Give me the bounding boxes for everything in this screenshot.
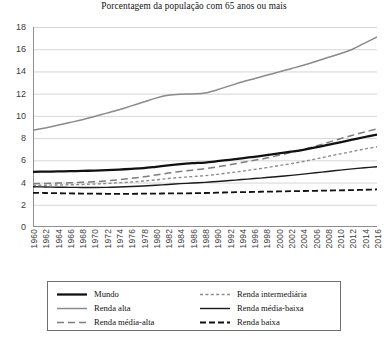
legend-swatch xyxy=(200,289,230,299)
chart-title: Porcentagem da população com 65 anos ou … xyxy=(0,0,388,12)
x-tick-label: 1968 xyxy=(78,229,88,248)
x-tick-label: 1972 xyxy=(103,229,113,248)
x-axis: 1960196219641966196819701972197419761978… xyxy=(33,229,377,277)
x-tick-label: 1964 xyxy=(54,229,64,248)
legend-swatch xyxy=(57,289,87,299)
x-tick-label: 1986 xyxy=(189,229,199,248)
y-tick-label: 6 xyxy=(21,155,26,165)
x-tick-label: 2012 xyxy=(348,229,358,248)
legend-label: Mundo xyxy=(94,289,119,299)
plot-area xyxy=(33,27,377,227)
y-tick-label: 16 xyxy=(16,44,26,54)
y-tick-label: 10 xyxy=(16,111,26,121)
x-tick-label: 1996 xyxy=(250,229,260,248)
x-tick-label: 1978 xyxy=(140,229,150,248)
legend-swatch xyxy=(57,317,87,327)
x-tick-label: 2000 xyxy=(275,229,285,248)
legend-item[interactable]: Renda baixa xyxy=(200,315,307,328)
y-tick-label: 0 xyxy=(21,222,26,232)
y-tick-label: 14 xyxy=(16,66,26,76)
y-tick-label: 8 xyxy=(21,133,26,143)
legend-label: Renda alta xyxy=(94,303,131,313)
legend-label: Renda média-alta xyxy=(94,317,154,327)
series-line-renda-intermedi-ria xyxy=(33,147,377,186)
x-tick-label: 1984 xyxy=(176,229,186,248)
legend-label: Renda intermediária xyxy=(237,289,307,299)
legend-swatch xyxy=(57,303,87,313)
x-tick-label: 1960 xyxy=(29,229,39,248)
series-line-renda-baixa xyxy=(33,189,377,193)
legend-swatch xyxy=(200,317,230,327)
y-axis: 024681012141618 xyxy=(0,0,33,240)
x-tick-label: 2016 xyxy=(373,229,383,248)
x-tick-label: 2010 xyxy=(336,229,346,248)
legend-item[interactable]: Renda intermediária xyxy=(200,287,307,300)
y-tick-label: 12 xyxy=(16,89,26,99)
x-tick-label: 1998 xyxy=(262,229,272,248)
x-tick-label: 1982 xyxy=(164,229,174,248)
chart-legend: MundoRenda altaRenda média-alta Renda in… xyxy=(47,281,341,331)
legend-column-right: Renda intermediáriaRenda média-baixaRend… xyxy=(200,287,307,329)
x-tick-label: 1988 xyxy=(201,229,211,248)
x-tick-label: 2002 xyxy=(287,229,297,248)
y-tick-label: 18 xyxy=(16,22,26,32)
legend-swatch xyxy=(200,303,230,313)
y-tick-label: 4 xyxy=(21,178,26,188)
x-tick-label: 1970 xyxy=(90,229,100,248)
x-tick-label: 2014 xyxy=(361,229,371,248)
legend-column-left: MundoRenda altaRenda média-alta xyxy=(57,287,154,329)
x-tick-label: 1962 xyxy=(41,229,51,248)
legend-item[interactable]: Renda alta xyxy=(57,301,154,314)
x-tick-label: 1966 xyxy=(66,229,76,248)
x-tick-label: 1980 xyxy=(152,229,162,248)
legend-item[interactable]: Renda média-baixa xyxy=(200,301,307,314)
legend-label: Renda baixa xyxy=(237,317,280,327)
legend-item[interactable]: Mundo xyxy=(57,287,154,300)
legend-label: Renda média-baixa xyxy=(237,303,304,313)
x-tick-label: 1992 xyxy=(226,229,236,248)
chart-container: Porcentagem da população com 65 anos ou … xyxy=(0,0,388,344)
legend-item[interactable]: Renda média-alta xyxy=(57,315,154,328)
x-tick-label: 1990 xyxy=(213,229,223,248)
series-line-mundo xyxy=(33,135,377,172)
x-tick-label: 1994 xyxy=(238,229,248,248)
x-tick-label: 1974 xyxy=(115,229,125,248)
x-tick-label: 2008 xyxy=(324,229,334,248)
y-tick-label: 2 xyxy=(21,200,26,210)
plot-svg xyxy=(33,27,377,227)
x-tick-label: 2004 xyxy=(299,229,309,248)
x-tick-label: 2006 xyxy=(312,229,322,248)
x-tick-label: 1976 xyxy=(127,229,137,248)
